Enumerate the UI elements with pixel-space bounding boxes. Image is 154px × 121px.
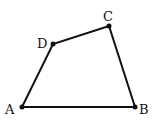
quadrilateral-diagram: ABCD: [0, 0, 154, 121]
label-a: A: [4, 102, 15, 117]
label-d: D: [37, 36, 47, 51]
label-b: B: [139, 102, 149, 117]
diagram-canvas: ABCD: [0, 0, 154, 121]
point-c: [107, 24, 112, 29]
point-a: [20, 105, 25, 110]
point-d: [51, 42, 56, 47]
label-c: C: [103, 9, 113, 24]
point-b: [133, 105, 138, 110]
